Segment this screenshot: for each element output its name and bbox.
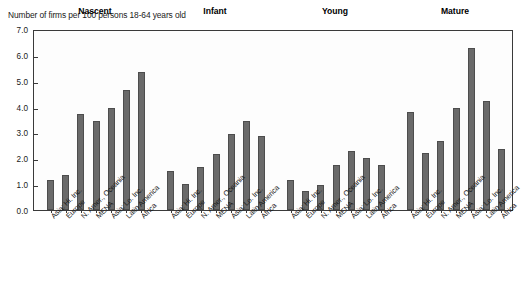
- bar: [407, 112, 414, 210]
- bar: [47, 180, 54, 210]
- bar: [287, 180, 294, 210]
- group-title-young: Young: [322, 6, 348, 16]
- group-title-nascent: Nascent: [78, 6, 111, 16]
- y-tick-mark: [34, 83, 38, 84]
- group-title-infant: Infant: [203, 6, 226, 16]
- y-tick-mark: [34, 160, 38, 161]
- y-tick-label: 2.0: [2, 155, 28, 164]
- y-tick-label: 4.0: [2, 103, 28, 112]
- y-tick-label: 7.0: [2, 26, 28, 35]
- y-tick-mark: [34, 186, 38, 187]
- y-tick-mark: [34, 109, 38, 110]
- chart-container: Number of firms per 100 persons 18-64 ye…: [0, 0, 524, 287]
- y-tick-label: 5.0: [2, 77, 28, 86]
- group-title-mature: Mature: [441, 6, 469, 16]
- y-tick-label: 3.0: [2, 129, 28, 138]
- y-tick-label: 1.0: [2, 181, 28, 190]
- y-tick-mark: [34, 57, 38, 58]
- bar: [123, 90, 130, 210]
- y-tick-mark: [34, 134, 38, 135]
- y-tick-label: 0.0: [2, 207, 28, 216]
- y-tick-label: 6.0: [2, 51, 28, 60]
- bar: [167, 171, 174, 210]
